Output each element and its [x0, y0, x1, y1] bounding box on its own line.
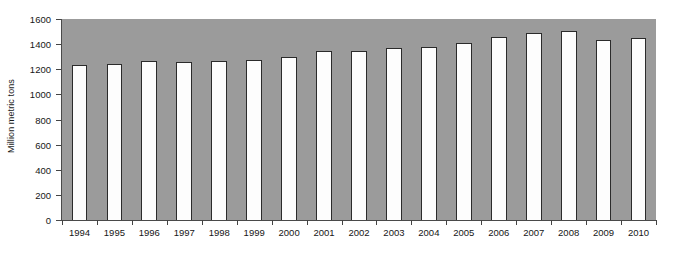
x-axis-tick-mark: [621, 220, 622, 225]
plot-area: [62, 19, 656, 220]
bar: [316, 51, 332, 220]
x-axis-tick-marks: [62, 220, 656, 225]
x-axis-tick-labels: 1994199519961997199819992000200120022003…: [62, 227, 656, 243]
x-axis-tick-mark: [132, 220, 133, 225]
y-axis-tick-label: 1400: [30, 39, 51, 50]
bar: [526, 33, 542, 220]
bar: [596, 40, 612, 220]
bar: [491, 37, 507, 220]
x-axis-tick-mark: [481, 220, 482, 225]
bar: [141, 61, 157, 220]
x-axis-tick-label: 1996: [139, 227, 160, 238]
x-axis-tick-label: 2009: [593, 227, 614, 238]
bar: [631, 38, 647, 220]
x-axis-tick-label: 2003: [383, 227, 404, 238]
x-axis-tick-label: 1997: [174, 227, 195, 238]
bar: [281, 57, 297, 220]
x-axis-tick-mark: [586, 220, 587, 225]
x-axis-tick-mark: [237, 220, 238, 225]
bar: [456, 43, 472, 220]
y-axis-tick-label: 400: [35, 164, 51, 175]
x-axis-tick-label: 2002: [348, 227, 369, 238]
x-axis-tick-mark: [376, 220, 377, 225]
y-axis-tick-label: 600: [35, 139, 51, 150]
y-axis-title-label: Million metric tons: [6, 79, 16, 153]
x-axis-tick-mark: [342, 220, 343, 225]
x-axis-tick-mark: [272, 220, 273, 225]
bar: [386, 48, 402, 220]
x-axis-tick-label: 1994: [69, 227, 90, 238]
x-axis-tick-label: 1995: [104, 227, 125, 238]
y-axis-tick-label: 0: [46, 215, 51, 226]
y-axis-tick-label: 1200: [30, 64, 51, 75]
bar: [72, 65, 88, 220]
bar: [561, 31, 577, 220]
x-axis-tick-mark: [446, 220, 447, 225]
bar: [351, 51, 367, 220]
x-axis-tick-label: 2008: [558, 227, 579, 238]
x-axis-tick-mark: [62, 220, 63, 225]
x-axis-tick-label: 1998: [209, 227, 230, 238]
y-axis-tick-labels: 02004006008001000120014001600: [22, 19, 55, 220]
x-axis-tick-label: 2010: [628, 227, 649, 238]
x-axis-tick-mark: [551, 220, 552, 225]
x-axis-tick-mark: [516, 220, 517, 225]
bar: [176, 62, 192, 220]
x-axis-tick-mark: [656, 220, 657, 225]
x-axis-tick-mark: [411, 220, 412, 225]
bars-layer: [62, 19, 656, 220]
x-axis-tick-label: 1999: [244, 227, 265, 238]
bar-chart: Million metric tons 02004006008001000120…: [0, 0, 682, 256]
x-axis-tick-mark: [202, 220, 203, 225]
bar: [246, 60, 262, 220]
y-axis-tick-label: 1600: [30, 14, 51, 25]
bar: [211, 61, 227, 220]
y-axis-tick-label: 800: [35, 114, 51, 125]
x-axis-tick-mark: [167, 220, 168, 225]
x-axis-tick-label: 2005: [453, 227, 474, 238]
x-axis-tick-label: 2004: [418, 227, 439, 238]
x-axis-tick-label: 2006: [488, 227, 509, 238]
y-axis-title: Million metric tons: [0, 0, 22, 232]
x-axis-tick-label: 2001: [313, 227, 334, 238]
y-axis-tick-label: 200: [35, 189, 51, 200]
bar: [421, 47, 437, 220]
x-axis-tick-label: 2000: [279, 227, 300, 238]
x-axis-tick-mark: [307, 220, 308, 225]
x-axis-tick-mark: [97, 220, 98, 225]
bar: [107, 64, 123, 220]
x-axis-tick-label: 2007: [523, 227, 544, 238]
y-axis-tick-label: 1000: [30, 89, 51, 100]
